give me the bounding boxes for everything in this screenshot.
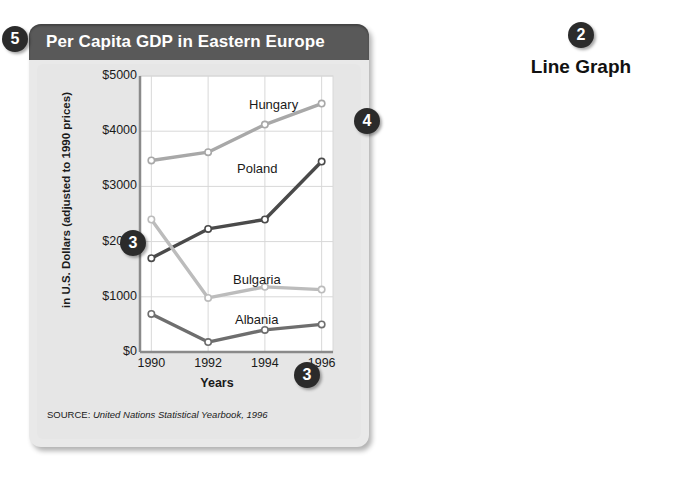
figure-card: Per Capita GDP in Eastern Europe in U.S.… [29, 24, 369, 447]
series-label-hungary: Hungary [249, 97, 298, 112]
series-label-poland: Poland [237, 161, 277, 176]
data-point-poland [148, 255, 154, 261]
data-point-poland [262, 216, 268, 222]
callout-3-axis: 3 [120, 230, 146, 256]
callout-2: 2 [568, 22, 594, 48]
data-point-albania [262, 327, 268, 333]
data-point-bulgaria [148, 216, 154, 222]
series-label-bulgaria: Bulgaria [233, 272, 281, 287]
line-graph-annotation-label: Line Graph [516, 56, 646, 78]
data-point-albania [205, 339, 211, 345]
x-axis-title: Years [147, 376, 287, 390]
data-point-hungary [318, 100, 324, 106]
x-tick-label: 1990 [121, 356, 181, 370]
source-label: SOURCE: [47, 409, 90, 420]
data-point-hungary [148, 157, 154, 163]
callout-5: 5 [2, 26, 28, 52]
data-point-bulgaria [318, 286, 324, 292]
data-point-albania [318, 321, 324, 327]
callout-3-x: 3 [294, 362, 320, 388]
x-tick-label: 1992 [178, 356, 238, 370]
data-point-hungary [205, 149, 211, 155]
plot-background [140, 76, 333, 352]
card-header: Per Capita GDP in Eastern Europe [29, 24, 369, 60]
page-title: Per Capita GDP in Eastern Europe [46, 32, 325, 52]
source-title: United Nations Statistical Yearbook, 199… [93, 409, 268, 420]
x-tick-label: 1994 [235, 356, 295, 370]
data-point-poland [318, 158, 324, 164]
line-chart: in U.S. Dollars (adjusted to 1990 prices… [37, 64, 361, 404]
plot-canvas [37, 64, 361, 404]
source-note: SOURCE: United Nations Statistical Yearb… [47, 409, 268, 420]
data-point-hungary [262, 121, 268, 127]
data-point-bulgaria [205, 295, 211, 301]
data-point-poland [205, 226, 211, 232]
series-label-albania: Albania [235, 312, 278, 327]
data-point-albania [148, 311, 154, 317]
callout-4: 4 [354, 108, 380, 134]
